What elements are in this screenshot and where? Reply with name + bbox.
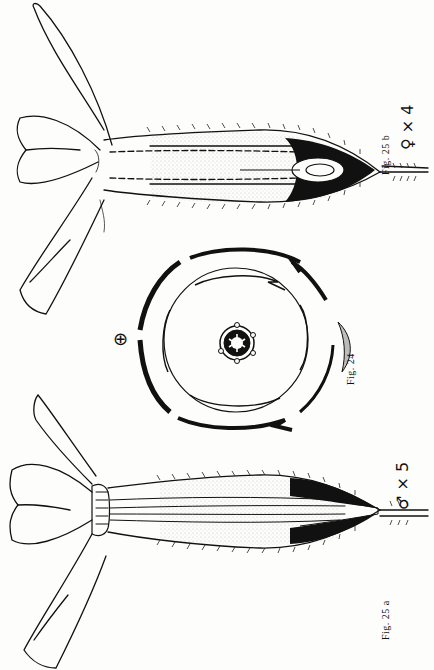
female-symbol-icon: ♀ [398,138,417,150]
magnification-fig-25b: ♀ × 4 [398,105,417,150]
magnification-value-25a: × 5 [393,462,412,491]
magnification-fig-25a: ♂ × 5 [393,462,412,510]
botanical-plate [0,0,434,670]
figure-25a-ovary-shading [160,477,378,545]
caption-fig-25a: Fig. 25 a [380,600,391,640]
magnification-value-25b: × 4 [398,105,417,134]
male-symbol-icon: ♂ [393,496,412,510]
caption-fig-24: Fig. 24 [345,353,356,385]
actinomorphic-symbol-icon: ⊕ [113,328,128,349]
figure-25b-ovary-shading [150,131,375,203]
caption-fig-25b: Fig. 25 b [380,135,391,175]
figure-24-floral-diagram [140,249,350,430]
